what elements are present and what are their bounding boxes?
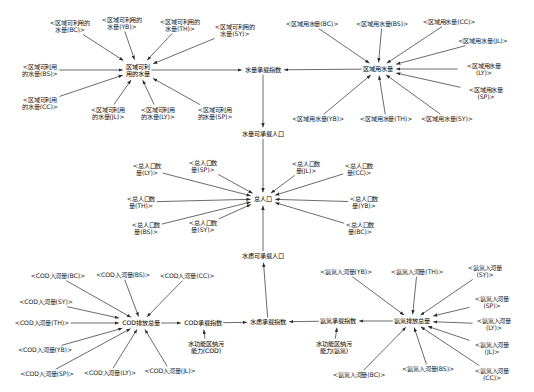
edge-water_avail_TH-to-water_avail (147, 33, 172, 60)
edge-water_use_JL-to-water_use (396, 46, 465, 64)
node-cod_total[interactable]: COD排放总量 (122, 319, 159, 326)
edge-pop_SP-to-pop_total (218, 174, 252, 193)
node-cod_LY[interactable]: <COD入河量(LY)> (84, 369, 136, 376)
edge-cod_JL-to-cod_total (145, 329, 167, 366)
node-water_use_SY[interactable]: <区域用水量(SY)> (421, 115, 473, 122)
edge-nh_YB-to-nh_total (352, 277, 404, 315)
node-water_use_LY[interactable]: <区域用水量(LY)> (459, 62, 509, 77)
node-pop_SP[interactable]: <总人口数 量(SP)> (189, 159, 218, 174)
node-pop_TH[interactable]: <总人口数 量(TH)> (127, 195, 156, 210)
node-water_avail_SY[interactable]: <区域可利用的 水量(SY)> (215, 23, 256, 38)
node-cod_YB[interactable]: <COD入河量(YB)> (18, 346, 72, 353)
edge-pop_BC-to-pop_total (275, 203, 344, 224)
edge-water_avail_JL-to-water_avail (114, 80, 131, 105)
edge-pop_LY-to-pop_total (163, 173, 251, 196)
node-cod_TH[interactable]: <COD入河量(TH)> (15, 319, 69, 326)
edge-nh_LY-to-nh_total (433, 322, 472, 323)
node-nh_SP[interactable]: <氨氮入河量(SP)> (471, 295, 513, 310)
edge-nh_BS-to-nh_total (414, 328, 426, 365)
edge-water_avail_YB-to-water_avail (125, 31, 135, 59)
edge-water_use_BC-to-water_use (319, 29, 370, 63)
edge-cod_LY-to-cod_total (113, 329, 137, 368)
node-water_avail_CC[interactable]: <区域可利用 的水量(CC)> (22, 96, 58, 111)
node-water_avail_BC[interactable]: <区域可利用的 水量(BC)> (50, 19, 91, 34)
edge-pop_SY-to-pop_total (219, 204, 251, 218)
node-water_use_CC[interactable]: <区域用水量(CC)> (423, 18, 476, 25)
node-water_avail_JL[interactable]: <区域可利用 的水量(JL)> (91, 106, 126, 121)
edge-nh_SP-to-nh_total (433, 307, 469, 316)
node-nh_LY[interactable]: <氨氮入河量(LY)> (474, 317, 514, 332)
edge-water_use_SP-to-water_use (396, 73, 460, 87)
edge-water_use_CC-to-water_use (387, 27, 442, 63)
node-pop_LY[interactable]: <总人口数 量(LY)> (133, 162, 162, 177)
edge-water_use_YB-to-water_use (324, 75, 371, 114)
node-water_avail_YB[interactable]: <区域可利用的 水量(YB)> (102, 16, 143, 31)
node-water_qty_index[interactable]: 水量承载指数 (245, 66, 280, 73)
node-nh_SY[interactable]: <氨氮入河量(SY)> (461, 264, 510, 279)
node-cod_BS[interactable]: <COD入河量(BS)> (96, 271, 150, 278)
edge-cod_SY-to-cod_total (67, 307, 119, 318)
edge-cod_YB-to-cod_total (62, 328, 123, 345)
node-water_qual_pop[interactable]: 水质可承载人口 (242, 252, 283, 259)
node-pop_SY[interactable]: <总人口数 量(SY)> (189, 219, 218, 234)
node-water_use_BC[interactable]: <区域用水量(BC)> (286, 20, 339, 27)
node-pop_YB[interactable]: <总人口数 量(YB)> (350, 195, 379, 210)
node-water_avail_TH[interactable]: <区域可利用的 水量(TH)> (160, 18, 201, 33)
node-nh_index[interactable]: 氨氮承载指数 (320, 317, 355, 324)
node-cod_index[interactable]: COD承载指数 (184, 319, 221, 326)
node-cod_BC[interactable]: <COD入河量(BC)> (31, 272, 85, 279)
edge-cod_capacity-to-cod_index (204, 330, 205, 339)
node-water_qual_index[interactable]: 水质承载指数 (250, 318, 285, 325)
edge-nh_TH-to-nh_total (413, 277, 417, 315)
edge-pop_YB-to-pop_total (275, 199, 348, 201)
node-water_use_YB[interactable]: <区域用水量(YB)> (292, 115, 344, 122)
edge-nh_BC-to-nh_total (364, 327, 406, 370)
node-nh_CC[interactable]: <氨氮入河量(CC)> (471, 367, 513, 382)
edge-cod_BC-to-cod_total (66, 281, 131, 318)
edge-cod_BS-to-cod_total (125, 280, 139, 317)
edge-water_avail_SP-to-water_avail (153, 78, 200, 104)
node-nh_YB[interactable]: <氨氮入河量(YB)> (320, 268, 372, 275)
edge-water_avail_CC-to-water_avail (59, 75, 122, 96)
node-nh_BC[interactable]: <氨氮入河量(BC)> (333, 371, 386, 378)
edge-water_avail_BC-to-water_avail (83, 34, 123, 60)
node-water_avail[interactable]: 区域可利 用的水量 (126, 63, 150, 78)
edge-pop_CC-to-pop_total (275, 174, 343, 195)
node-pop_CC[interactable]: <总人口数 量(CC)> (345, 162, 374, 177)
node-nh_total[interactable]: 氨氮排放总量 (394, 317, 429, 324)
node-nh_BS[interactable]: <氨氮入河量(BS)> (402, 365, 454, 372)
edge-pop_JL-to-pop_total (271, 175, 295, 193)
edge-water_avail_SY-to-water_avail (153, 38, 214, 63)
node-water_qty_pop[interactable]: 水量可承载人口 (242, 130, 283, 137)
node-water_avail_BS[interactable]: <区域可利用 的水量(BS)> (22, 63, 57, 78)
node-nh_capacity[interactable]: 水功能区纳污 能力(氨氮) (316, 340, 351, 355)
edge-water_use_SY-to-water_use (386, 75, 440, 114)
node-water_avail_LY[interactable]: <区域可利用 的水量(LY)> (141, 106, 176, 121)
node-water_avail_SP[interactable]: <区域可利用 的水量(SP)> (198, 106, 233, 121)
node-water_use_SP[interactable]: <区域用水量(SP)> (462, 86, 510, 101)
node-pop_total[interactable]: 总人口 (254, 195, 272, 202)
edge-nh_SY-to-nh_total (421, 279, 473, 315)
edge-water_use_TH-to-water_use (379, 76, 385, 115)
node-nh_TH[interactable]: <氨氮入河量(TH)> (391, 268, 444, 275)
edge-water_qual_index-to-water_qual_pop (264, 263, 268, 318)
node-water_use_BS[interactable]: <区域用水量(BS)> (356, 20, 408, 27)
node-cod_JL[interactable]: <COD入河量(JL)> (144, 367, 195, 374)
edge-water_use_BS-to-water_use (379, 29, 382, 63)
edge-cod_CC-to-cod_total (147, 281, 182, 317)
edge-water_avail_LY-to-water_avail (143, 80, 154, 104)
edge-nh_JL-to-nh_total (428, 326, 470, 340)
node-pop_JL[interactable]: <总人口数 量(JL)> (292, 160, 321, 175)
node-cod_SP[interactable]: <COD入河量(SP)> (20, 370, 74, 377)
node-nh_JL[interactable]: <氨氮入河量(JL)> (471, 341, 513, 356)
node-water_use_JL[interactable]: <区域用水量(JL)> (458, 37, 507, 44)
diagram-canvas: <区域可利用的 水量(BC)><区域可利用的 水量(YB)><区域可利用的 水量… (0, 0, 534, 392)
node-water_use[interactable]: 区域用水量 (363, 65, 393, 72)
node-cod_capacity[interactable]: 水功能区纳污 能力(COD) (188, 340, 223, 355)
node-water_use_TH[interactable]: <区域用水量(TH)> (360, 115, 413, 122)
edge-nh_capacity-to-nh_index (335, 328, 337, 339)
node-pop_BC[interactable]: <总人口数 量(BC)> (346, 221, 375, 236)
node-pop_BS[interactable]: <总人口数 量(BS)> (132, 221, 161, 236)
node-cod_SY[interactable]: <COD入河量(SY)> (19, 298, 73, 305)
node-cod_CC[interactable]: <COD入河量(CC)> (160, 272, 215, 279)
